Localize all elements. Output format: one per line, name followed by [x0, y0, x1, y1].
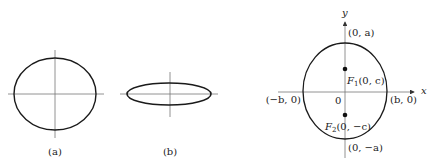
- ellipse-diagram: (a) (b) x y 0 (0, a) (0, −a) (−b, 0) (b,…: [0, 0, 433, 167]
- focus-2-label: F2(0, −c): [324, 121, 371, 134]
- vertex-top-label: (0, a): [348, 27, 375, 38]
- focus-2-coords: (0, −c): [336, 121, 371, 132]
- focus-1-coords: (0, c): [358, 75, 384, 86]
- figure-b: (b): [120, 72, 218, 157]
- figure-a-label: (a): [48, 146, 62, 157]
- x-axis-label: x: [421, 85, 427, 96]
- focus-1-point: [343, 67, 348, 72]
- figure-c: x y 0 (0, a) (0, −a) (−b, 0) (b, 0) F1(0…: [266, 7, 427, 158]
- focus-1-label: F1(0, c): [346, 75, 385, 88]
- vertex-bottom-label: (0, −a): [348, 142, 383, 153]
- figure-b-label: (b): [163, 146, 177, 157]
- covertex-right-label: (b, 0): [390, 94, 417, 105]
- y-axis-label: y: [341, 7, 348, 18]
- figure-a: (a): [8, 50, 104, 157]
- covertex-left-label: (−b, 0): [266, 94, 301, 105]
- focus-2-point: [343, 113, 348, 118]
- origin-label: 0: [335, 95, 341, 106]
